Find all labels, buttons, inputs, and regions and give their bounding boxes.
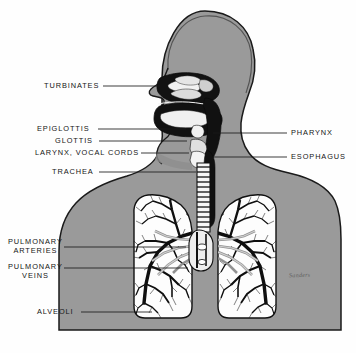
label-alveoli-line-0: ALVEOLI (37, 308, 74, 317)
label-pharynx: PHARYNX (291, 129, 333, 138)
lung-left (131, 192, 196, 318)
label-pharynx-line-0: PHARYNX (291, 129, 333, 138)
hilum-great-vessels (189, 230, 213, 271)
label-esophagus-line-0: ESOPHAGUS (291, 153, 346, 162)
trachea-structure (197, 163, 210, 232)
epiglottis-structure (191, 125, 204, 138)
artist-signature: Sanders (289, 272, 311, 279)
label-pulmonary-arteries: PULMONARYARTERIES (8, 238, 63, 255)
label-epiglottis-line-0: EPIGLOTTIS (37, 125, 90, 134)
label-pulmonary-veins: PULMONARYVEINS (8, 263, 63, 280)
pulmonary-artery-ostium (198, 244, 207, 250)
label-pulmonary-arteries-line-1: ARTERIES (8, 247, 63, 256)
label-alveoli: ALVEOLI (37, 308, 74, 317)
label-trachea: TRACHEA (52, 168, 94, 177)
label-epiglottis: EPIGLOTTIS (37, 125, 90, 134)
label-larynx-vocal-cords-line-0: LARYNX, VOCAL CORDS (35, 149, 139, 158)
respiratory-system-diagram: TURBINATESEPIGLOTTISGLOTTISLARYNX, VOCAL… (0, 0, 356, 353)
label-trachea-line-0: TRACHEA (52, 168, 94, 177)
label-glottis: GLOTTIS (55, 137, 93, 146)
pulmonary-vein-ostium (198, 259, 206, 264)
label-larynx-vocal-cords: LARYNX, VOCAL CORDS (35, 149, 139, 158)
label-turbinates: TURBINATES (44, 82, 99, 91)
label-turbinates-line-0: TURBINATES (44, 82, 99, 91)
label-pulmonary-veins-line-1: VEINS (8, 272, 63, 281)
lung-right (214, 192, 279, 318)
label-esophagus: ESOPHAGUS (291, 153, 346, 162)
label-glottis-line-0: GLOTTIS (55, 137, 93, 146)
